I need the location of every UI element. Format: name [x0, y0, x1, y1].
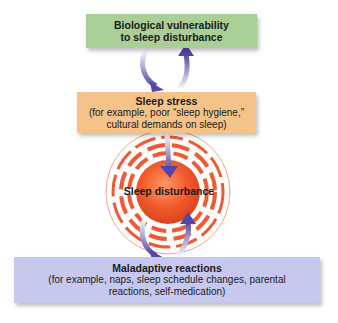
arrow-stress-to-bio: [178, 44, 194, 90]
sleep-disturbance-label: Sleep disturbance: [110, 185, 228, 197]
sleep-stress-title: Sleep stress: [77, 95, 256, 107]
sleep-stress-example-line2: cultural demands on sleep): [77, 119, 256, 131]
arrow-bio-to-stress: [143, 50, 164, 92]
maladaptive-reactions-example-line2: reactions, self-medication): [14, 286, 320, 298]
maladaptive-reactions-example-line1: (for example, naps, sleep schedule chang…: [14, 274, 320, 286]
biological-vulnerability-box: Biological vulnerability to sleep distur…: [86, 14, 257, 48]
sleep-stress-box: Sleep stress (for example, poor “sleep h…: [77, 92, 256, 133]
sleep-stress-example-line1: (for example, poor “sleep hygiene,”: [77, 107, 256, 119]
maladaptive-reactions-title: Maladaptive reactions: [14, 262, 320, 274]
maladaptive-reactions-box: Maladaptive reactions (for example, naps…: [14, 257, 320, 303]
biological-vulnerability-title: Biological vulnerability: [86, 19, 257, 31]
biological-vulnerability-title-line2: to sleep disturbance: [86, 31, 257, 43]
